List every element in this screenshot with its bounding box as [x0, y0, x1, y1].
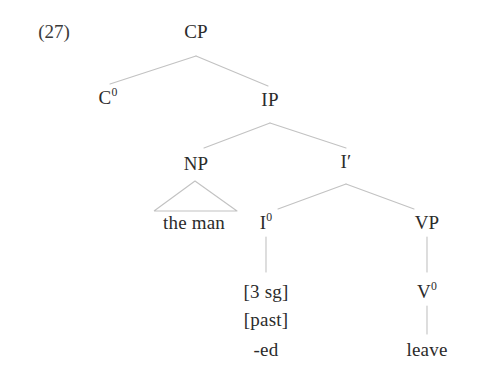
terminal-feature-past: [past]	[244, 310, 288, 329]
node-c0: C0	[99, 88, 118, 107]
terminal-feature-3sg: [3 sg]	[244, 282, 289, 301]
node-c0-superscript: 0	[111, 86, 117, 99]
node-v0-superscript: 0	[431, 280, 437, 293]
syntax-tree-figure: (27) CP C0 IP NP I′ the man I0 VP [3 sg]…	[0, 0, 480, 388]
edge-ibar-to-vp	[346, 184, 414, 209]
node-v0: V0	[417, 282, 437, 301]
node-np: NP	[184, 154, 209, 173]
node-cp: CP	[184, 22, 208, 41]
terminal-ed: -ed	[254, 340, 279, 359]
node-i-bar: I′	[341, 152, 352, 171]
terminal-the-man: the man	[163, 213, 225, 232]
edge-cp-to-c0	[110, 56, 196, 84]
node-i0-superscript: 0	[266, 211, 272, 224]
tree-branch-lines	[0, 0, 480, 388]
edge-cp-to-ip	[196, 56, 268, 86]
edge-ip-to-np	[204, 123, 270, 148]
node-v0-label: V	[417, 281, 431, 302]
terminal-leave: leave	[406, 340, 447, 359]
node-vp: VP	[415, 213, 440, 232]
example-number: (27)	[38, 22, 70, 41]
edge-ip-to-ibar	[270, 123, 346, 148]
node-ip: IP	[261, 90, 278, 109]
np-triangle-icon	[154, 181, 237, 211]
node-i0: I0	[260, 213, 273, 232]
edge-ibar-to-i0	[278, 184, 346, 209]
node-c0-label: C	[99, 87, 112, 108]
